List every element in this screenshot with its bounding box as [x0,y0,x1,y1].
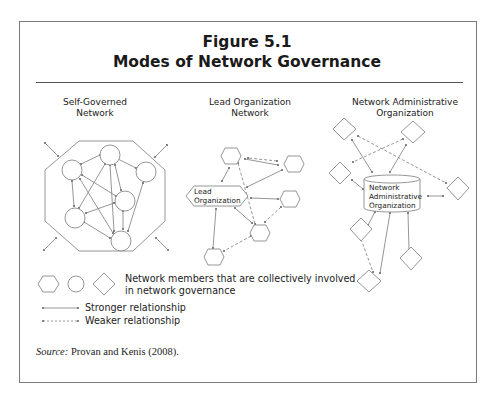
legend-stronger: Stronger relationship [85,302,186,314]
diamond-node [447,177,469,200]
diamond-node [357,270,381,292]
source-note: Source: Provan and Kenis (2008). [36,346,179,357]
hexagon-node [221,148,241,164]
diamond-node [400,247,422,270]
diamond-node [401,121,425,143]
svg-text:Organization: Organization [369,201,416,210]
svg-text:Lead: Lead [194,187,212,196]
svg-text:Organization: Organization [194,196,241,205]
diamond-node [350,218,372,241]
hexagon-node [250,225,270,241]
diamond-legend-icon [93,273,115,295]
hexagon-node [204,249,224,265]
hexagon-node [280,191,300,207]
self-governed-network [44,141,168,251]
legend-members-text: Network members that are collectively in… [125,273,355,297]
lead-organization-network: Lead Organization [186,148,304,265]
legend-shapes [38,273,115,295]
svg-text:Network: Network [369,183,400,192]
circle-legend-icon [68,276,84,292]
nao-network: Network Administrative Organization [329,118,469,292]
legend-weaker: Weaker relationship [85,315,180,327]
hexagon-node [284,156,304,172]
hexagon-legend-icon [38,276,59,292]
diamond-node [333,118,356,140]
diamond-node [329,162,351,184]
svg-text:Administrative: Administrative [369,192,423,201]
